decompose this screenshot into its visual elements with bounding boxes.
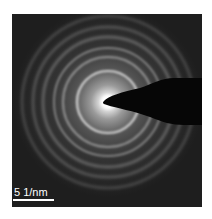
scale-bar: [13, 199, 54, 201]
scale-bar-label: 5 1/nm: [14, 186, 48, 198]
diffraction-image: 5 1/nm: [12, 14, 202, 207]
diffraction-pattern: [12, 14, 202, 207]
